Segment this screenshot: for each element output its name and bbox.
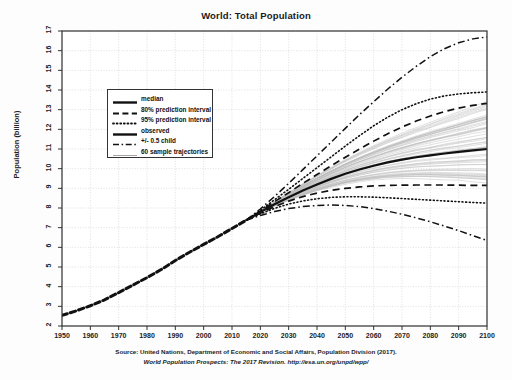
legend-label: 60 sample trajectories (141, 148, 208, 155)
y-tick-label: 12 (45, 118, 52, 138)
plot-background (62, 31, 487, 326)
legend-item: median (112, 94, 212, 105)
legend-key-icon (112, 94, 138, 105)
legend-key-icon (112, 105, 138, 116)
legend-item: 80% prediction interval (112, 105, 212, 116)
y-tick-label: 5 (45, 256, 52, 276)
y-tick-label: 15 (45, 59, 52, 79)
y-tick-label: 9 (45, 177, 52, 197)
y-tick-label: 8 (45, 197, 52, 217)
caption-line-1: Source: United Nations, Department of Ec… (0, 347, 512, 357)
caption-line-2: World Population Prospects: The 2017 Rev… (0, 357, 512, 367)
legend-item: 95% prediction interval (112, 115, 212, 126)
y-tick-label: 10 (45, 157, 52, 177)
y-tick-label: 6 (45, 236, 52, 256)
legend-item: observed (112, 126, 212, 137)
legend-label: +/- 0.5 child (141, 137, 176, 144)
chart-figure: World: Total Population Population (bill… (0, 0, 512, 380)
y-tick-label: 13 (45, 98, 52, 118)
legend-label: median (141, 95, 163, 102)
y-tick-label: 11 (45, 138, 52, 158)
legend-key-icon (112, 136, 138, 147)
y-tick-label: 4 (45, 275, 52, 295)
legend-item: 60 sample trajectories (112, 147, 212, 158)
legend-label: 80% prediction interval (141, 106, 211, 113)
legend-item: +/- 0.5 child (112, 136, 212, 147)
y-tick-label: 14 (45, 79, 52, 99)
legend-key-icon (112, 126, 138, 137)
x-tick-label: 2100 (470, 332, 504, 339)
y-tick-label: 16 (45, 39, 52, 59)
source-caption: Source: United Nations, Department of Ec… (0, 347, 512, 367)
legend-label: observed (141, 127, 169, 134)
legend-key-icon (112, 147, 138, 158)
legend-key-icon (112, 115, 138, 126)
legend: median80% prediction interval95% predict… (107, 89, 213, 158)
y-tick-label: 17 (45, 20, 52, 40)
y-tick-label: 3 (45, 295, 52, 315)
legend-label: 95% prediction interval (141, 116, 211, 123)
y-tick-label: 7 (45, 216, 52, 236)
plot-area (0, 0, 512, 380)
